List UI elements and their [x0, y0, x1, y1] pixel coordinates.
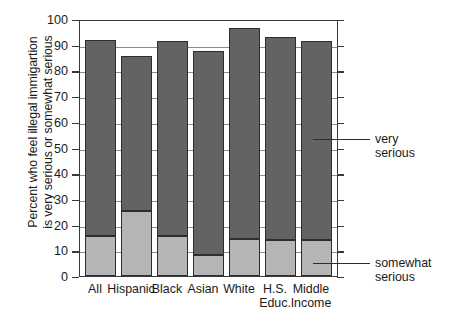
y-tick-mark-right-30 — [337, 200, 344, 201]
y-tick-mark-right-100 — [337, 20, 344, 21]
y-tick-label-90: 90 — [54, 40, 68, 53]
bar-column-hs-educ[interactable] — [265, 21, 296, 276]
bar-segment-somewhat-serious[interactable] — [265, 240, 296, 276]
y-tick-mark-right-40 — [337, 174, 344, 175]
y-tick-mark-30 — [72, 200, 79, 201]
bar-chart: Percent who feel illegal immigartion is … — [0, 0, 462, 314]
y-tick-mark-right-50 — [337, 149, 344, 150]
y-tick-mark-50 — [72, 149, 79, 150]
bar-column-all[interactable] — [85, 21, 116, 276]
y-tick-mark-90 — [72, 46, 79, 47]
y-tick-mark-60 — [72, 123, 79, 124]
legend-leader-line-somewhat-serious — [313, 263, 370, 264]
x-tick-label-middle-income-line-1: Middle — [280, 282, 342, 296]
y-tick-mark-70 — [72, 97, 79, 98]
legend-label-somewhat-serious-line-2: serious — [375, 270, 431, 284]
legend-label-somewhat-serious: somewhat serious — [375, 256, 431, 284]
y-tick-label-70: 70 — [54, 91, 68, 104]
bar-segment-somewhat-serious[interactable] — [85, 236, 116, 276]
bar-segment-somewhat-serious[interactable] — [301, 240, 332, 276]
y-tick-mark-right-20 — [337, 226, 344, 227]
bar-column-middle-income[interactable] — [301, 21, 332, 276]
x-tick-label-middle-income: Middle Income — [280, 282, 342, 310]
bar-segment-somewhat-serious[interactable] — [121, 211, 152, 277]
legend-label-very-serious-line-1: very — [375, 132, 415, 146]
y-tick-label-40: 40 — [54, 168, 68, 181]
y-tick-mark-right-90 — [337, 46, 344, 47]
legend-label-somewhat-serious-line-1: somewhat — [375, 256, 431, 270]
x-tick-label-middle-income-line-2: Income — [280, 296, 342, 310]
bar-segment-very-serious[interactable] — [157, 41, 188, 236]
legend-label-very-serious: very serious — [375, 132, 415, 160]
y-axis-title-line-1: Percent who feel illegal immigartion — [26, 0, 41, 266]
y-tick-mark-40 — [72, 174, 79, 175]
bar-column-black[interactable] — [157, 21, 188, 276]
bar-segment-very-serious[interactable] — [193, 51, 224, 255]
bar-segment-somewhat-serious[interactable] — [229, 239, 260, 276]
bar-segment-very-serious[interactable] — [301, 41, 332, 240]
bar-segment-very-serious[interactable] — [121, 56, 152, 210]
bar-segment-very-serious[interactable] — [85, 40, 116, 237]
y-tick-label-60: 60 — [54, 117, 68, 130]
y-tick-mark-right-60 — [337, 123, 344, 124]
y-tick-mark-right-0 — [337, 277, 344, 278]
y-tick-mark-10 — [72, 251, 79, 252]
bar-column-white[interactable] — [229, 21, 260, 276]
y-tick-label-100: 100 — [47, 14, 68, 27]
y-tick-mark-20 — [72, 226, 79, 227]
bar-column-hispanic[interactable] — [121, 21, 152, 276]
y-tick-mark-80 — [72, 71, 79, 72]
legend-label-very-serious-line-2: serious — [375, 146, 415, 160]
bar-series-group — [80, 21, 337, 276]
legend-leader-line-very-serious — [313, 139, 370, 140]
plot-area — [79, 20, 338, 277]
y-tick-label-10: 10 — [54, 245, 68, 258]
bar-column-asian[interactable] — [193, 21, 224, 276]
bar-segment-somewhat-serious[interactable] — [193, 255, 224, 276]
y-tick-mark-right-70 — [337, 97, 344, 98]
y-tick-label-80: 80 — [54, 65, 68, 78]
y-tick-mark-100 — [72, 20, 79, 21]
bar-segment-somewhat-serious[interactable] — [157, 236, 188, 276]
y-tick-label-20: 20 — [54, 220, 68, 233]
bar-segment-very-serious[interactable] — [229, 28, 260, 239]
bar-segment-very-serious[interactable] — [265, 37, 296, 240]
y-tick-label-50: 50 — [54, 143, 68, 156]
y-tick-mark-right-10 — [337, 251, 344, 252]
y-axis-title-line-2: is very serious or somewhat serious — [41, 0, 56, 266]
y-tick-mark-right-80 — [337, 71, 344, 72]
y-tick-label-30: 30 — [54, 194, 68, 207]
y-tick-mark-0 — [72, 277, 79, 278]
